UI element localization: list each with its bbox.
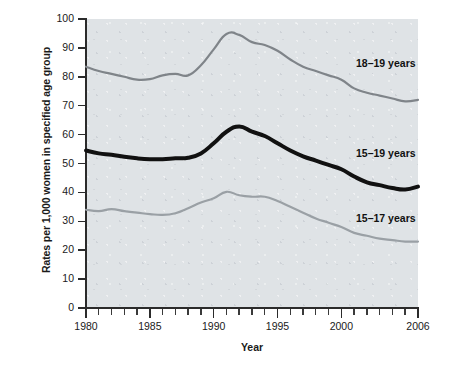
series-label-15-19: 15–19 years: [356, 147, 416, 159]
line-chart-figure: Rates per 1,000 women in specified age g…: [0, 0, 451, 373]
series-lines: [0, 0, 451, 373]
x-axis-title: Year: [86, 341, 418, 353]
series-label-15-17: 15–17 years: [356, 212, 416, 224]
series-label-18-19: 18–19 years: [356, 57, 416, 69]
